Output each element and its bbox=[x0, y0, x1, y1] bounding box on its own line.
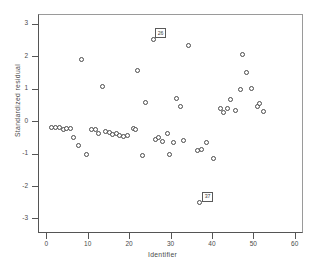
data-point bbox=[68, 126, 73, 131]
x-axis-title: Identifier bbox=[0, 251, 325, 258]
data-point bbox=[181, 138, 186, 143]
plot-data-area: 2637 bbox=[38, 14, 303, 233]
x-tick-mark bbox=[295, 233, 296, 239]
data-point bbox=[167, 152, 172, 157]
y-tick-mark bbox=[32, 218, 38, 219]
data-point bbox=[135, 68, 140, 73]
data-point bbox=[249, 86, 254, 91]
data-point bbox=[84, 152, 89, 157]
y-tick-label: -3 bbox=[8, 215, 28, 222]
data-point bbox=[76, 143, 81, 148]
scatter-plot-figure: 2637 Standardized residual Identifier 32… bbox=[0, 0, 325, 267]
data-point bbox=[228, 97, 233, 102]
data-point bbox=[96, 131, 101, 136]
y-tick-label: 2 bbox=[8, 53, 28, 60]
data-point bbox=[171, 140, 176, 145]
y-tick-mark bbox=[32, 186, 38, 187]
y-tick-label: 0 bbox=[8, 118, 28, 125]
data-point bbox=[225, 106, 230, 111]
x-tick-label: 20 bbox=[118, 241, 140, 248]
y-tick-mark bbox=[32, 56, 38, 57]
data-point bbox=[199, 147, 204, 152]
x-tick-mark bbox=[212, 233, 213, 239]
data-point bbox=[244, 70, 249, 75]
x-tick-mark bbox=[129, 233, 130, 239]
y-tick-label: 1 bbox=[8, 85, 28, 92]
data-point bbox=[240, 52, 245, 57]
y-tick-label: -1 bbox=[8, 150, 28, 157]
data-point bbox=[71, 135, 76, 140]
x-tick-mark bbox=[253, 233, 254, 239]
data-point bbox=[211, 156, 216, 161]
data-point bbox=[140, 153, 145, 158]
y-tick-label: -2 bbox=[8, 183, 28, 190]
x-tick-label: 40 bbox=[201, 241, 223, 248]
x-tick-label: 50 bbox=[242, 241, 264, 248]
x-tick-mark bbox=[171, 233, 172, 239]
data-point bbox=[79, 57, 84, 62]
data-point bbox=[143, 100, 148, 105]
data-point bbox=[257, 101, 262, 106]
data-point bbox=[261, 109, 266, 114]
case-label-callout: 26 bbox=[155, 28, 166, 38]
data-point bbox=[178, 104, 183, 109]
data-point bbox=[238, 87, 243, 92]
data-point bbox=[133, 127, 138, 132]
x-tick-label: 30 bbox=[160, 241, 182, 248]
data-point bbox=[221, 110, 226, 115]
y-tick-mark bbox=[32, 154, 38, 155]
data-point bbox=[186, 43, 191, 48]
case-label-callout: 37 bbox=[202, 192, 213, 202]
x-tick-mark bbox=[46, 233, 47, 239]
x-tick-label: 60 bbox=[284, 241, 306, 248]
x-tick-label: 0 bbox=[35, 241, 57, 248]
x-tick-label: 10 bbox=[77, 241, 99, 248]
y-tick-mark bbox=[32, 121, 38, 122]
y-tick-label: 3 bbox=[8, 20, 28, 27]
data-point bbox=[233, 108, 238, 113]
data-point bbox=[165, 131, 170, 136]
y-axis-title: Standardized residual bbox=[14, 46, 21, 156]
data-point bbox=[100, 84, 105, 89]
data-point bbox=[174, 96, 179, 101]
data-point bbox=[204, 140, 209, 145]
data-point bbox=[160, 139, 165, 144]
y-tick-mark bbox=[32, 89, 38, 90]
x-tick-mark bbox=[88, 233, 89, 239]
y-tick-mark bbox=[32, 24, 38, 25]
